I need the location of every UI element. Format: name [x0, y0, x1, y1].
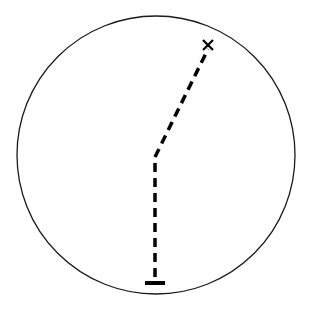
dashed-route-path	[155, 49, 208, 277]
end-x-icon	[203, 40, 213, 50]
diagram-canvas	[0, 0, 311, 310]
